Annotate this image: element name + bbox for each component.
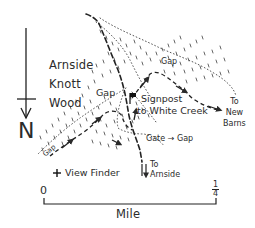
signpost-label-line1: Signpost	[141, 93, 208, 105]
walking-map: Arnside Knott Wood N Gap Gap Gap Signpos…	[0, 0, 255, 228]
new-barns-line: To	[223, 96, 246, 107]
cross-marker-icon	[53, 169, 61, 177]
view-finder-label: View Finder	[65, 168, 120, 178]
wood-name-line: Knott	[49, 75, 94, 94]
wood-name-line: Arnside	[49, 56, 94, 75]
signpost-label-line2: to White Creek	[137, 105, 208, 117]
scale-unit-label: Mile	[116, 209, 140, 221]
route-to-new-barns	[50, 111, 132, 156]
wood-name-line: Wood	[49, 94, 94, 113]
new-barns-line: New	[223, 107, 246, 118]
new-barns-line: Barns	[223, 118, 246, 129]
wood-name: Arnside Knott Wood	[49, 56, 94, 113]
gate-gap-label: Gate → Gap	[146, 135, 193, 143]
scale-start-label: 0	[40, 185, 47, 196]
gap-label-left: Gap	[96, 88, 115, 98]
to-arnside-line: Arnside	[150, 170, 180, 180]
scale-bar	[44, 198, 216, 204]
new-barns-label: To New Barns	[223, 96, 246, 129]
scale-end-label: 1 4	[212, 181, 219, 198]
north-arrow-icon	[17, 28, 36, 118]
to-arnside-label: To Arnside	[150, 160, 180, 180]
gap-label-top: Gap	[161, 58, 177, 66]
north-label: N	[18, 120, 34, 142]
to-arnside-arrow	[142, 164, 146, 176]
scale-end-denominator: 4	[212, 190, 219, 198]
signpost-label: Signpost to White Creek	[141, 93, 208, 117]
to-arnside-line: To	[150, 160, 180, 170]
scale-end-numerator: 1	[212, 181, 219, 189]
